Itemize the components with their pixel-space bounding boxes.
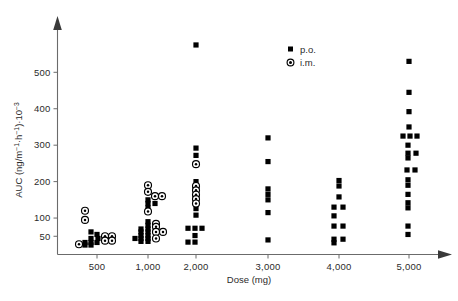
data-point-po (405, 200, 410, 205)
data-point-po (340, 205, 345, 210)
data-point-po (88, 242, 93, 247)
data-point-group (76, 42, 420, 247)
data-point-im-dot (147, 191, 150, 194)
y-tick-label: 50 (40, 231, 51, 242)
data-point-im-dot (111, 239, 114, 242)
data-point-po (82, 242, 87, 247)
y-axis-title-tail: )·10 (13, 110, 24, 127)
data-point-po (265, 197, 270, 202)
data-point-po (414, 133, 419, 138)
y-axis-title: AUC (ng/m−1·h−1)·10−3 (13, 102, 24, 198)
y-axis-title-unit-mid: m (13, 151, 24, 159)
data-point-po (340, 223, 345, 228)
data-point-im-dot (84, 219, 87, 222)
data-point-po (265, 159, 270, 164)
data-point-po (404, 167, 409, 172)
data-point-po (185, 226, 190, 231)
data-point-po (265, 135, 270, 140)
data-point-po (331, 240, 336, 245)
scatter-plot-figure: 50100200300400500 5001,0002,0003,0004,00… (0, 0, 458, 301)
data-point-im-dot (147, 184, 150, 187)
x-tick-label: 4,000 (327, 261, 352, 272)
y-axis-title-sup3: −3 (13, 102, 20, 110)
legend-label-im: i.m. (300, 57, 315, 68)
data-point-po (412, 167, 417, 172)
x-axis-title: Dose (mg) (227, 274, 271, 285)
x-tick-label: 1,000 (136, 261, 161, 272)
data-point-po (331, 223, 336, 228)
data-point-po (185, 240, 190, 245)
x-axis-arrowhead (438, 250, 452, 259)
data-point-po (193, 213, 198, 218)
y-tick-label: 500 (34, 67, 50, 78)
x-tick-label: 2,000 (184, 261, 209, 272)
data-point-im-dot (155, 231, 158, 234)
data-point-po (406, 90, 411, 95)
x-tick-label: 5,000 (397, 261, 422, 272)
data-point-po (340, 237, 345, 242)
x-tick-group: 5001,0002,0003,0004,0005,000 (89, 255, 422, 272)
data-point-po (405, 205, 410, 210)
data-point-po (407, 133, 412, 138)
data-point-po (265, 237, 270, 242)
data-point-po (406, 109, 411, 114)
legend-marker-im-dot (289, 61, 292, 64)
data-point-im-dot (154, 195, 157, 198)
data-point-im-dot (104, 239, 107, 242)
data-point-im-dot (162, 231, 165, 234)
legend-label-po: p.o. (300, 44, 316, 55)
data-point-po (265, 186, 270, 191)
data-point-po (138, 239, 143, 244)
data-point-po (331, 205, 336, 210)
data-point-po (405, 183, 410, 188)
data-point-im-dot (155, 237, 158, 240)
data-point-im-dot (78, 243, 81, 246)
data-point-po (413, 151, 418, 156)
data-point-po (336, 178, 341, 183)
data-point-po (406, 124, 411, 129)
legend-marker-po (288, 47, 293, 52)
y-tick-group: 50100200300400500 (34, 67, 57, 242)
y-tick-label: 300 (34, 139, 50, 150)
data-point-po (192, 233, 197, 238)
y-axis (53, 16, 62, 255)
data-point-im-dot (195, 202, 198, 205)
y-axis-title-mid-dot: ·h (13, 135, 24, 143)
data-point-po (405, 143, 410, 148)
plot-canvas: 50100200300400500 5001,0002,0003,0004,00… (0, 0, 458, 301)
data-point-po (406, 59, 411, 64)
y-axis-arrowhead (53, 16, 62, 30)
data-point-po (192, 226, 197, 231)
y-tick-label: 100 (34, 212, 50, 223)
data-point-im-dot (147, 210, 150, 213)
data-point-im-dot (155, 226, 158, 229)
data-point-po (199, 226, 204, 231)
data-point-po (265, 192, 270, 197)
data-point-po (405, 151, 410, 156)
x-axis (58, 250, 453, 259)
data-point-po (152, 201, 157, 206)
x-tick-label: 3,000 (256, 261, 281, 272)
data-point-po (88, 229, 93, 234)
x-tick-label: 500 (89, 261, 105, 272)
data-point-po (336, 194, 341, 199)
data-point-po (405, 232, 410, 237)
data-point-po (193, 42, 198, 47)
svg-text:AUC (ng/m−1·h−1)·10−3: AUC (ng/m−1·h−1)·10−3 (13, 102, 24, 198)
data-point-po (405, 223, 410, 228)
data-point-po (405, 177, 410, 182)
data-point-im-dot (84, 210, 87, 213)
y-tick-label: 200 (34, 176, 50, 187)
data-point-po (193, 145, 198, 150)
data-point-po (192, 240, 197, 245)
data-point-po (132, 236, 137, 241)
data-point-po (400, 133, 405, 138)
data-point-im-dot (161, 195, 164, 198)
data-point-po (405, 192, 410, 197)
data-point-po (145, 239, 150, 244)
legend: p.o. i.m. (287, 44, 316, 69)
y-axis-title-main: AUC (ng (13, 161, 24, 197)
data-point-po (94, 240, 99, 245)
y-tick-label: 400 (34, 103, 50, 114)
data-point-im-dot (195, 163, 198, 166)
